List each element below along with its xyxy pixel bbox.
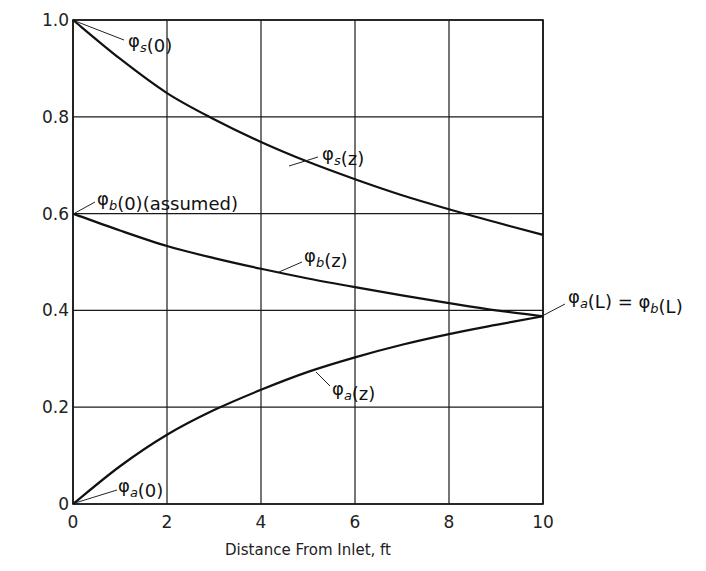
annot-phi-a-0: φa(0) xyxy=(118,475,163,501)
leader-phi-a-z xyxy=(316,372,330,386)
y-tick-label: 0.4 xyxy=(42,300,69,320)
leader-phi-a-L xyxy=(544,304,565,315)
leader-phi-s-0 xyxy=(75,21,124,40)
x-tick-label: 0 xyxy=(68,512,79,532)
annot-phi-b-z: φb(z) xyxy=(304,245,348,271)
y-tick-label: 1.0 xyxy=(42,10,69,30)
annot-phi-a-L-eq-phi-b-L: φa(L) = φb(L) xyxy=(568,286,683,317)
x-tick-label: 10 xyxy=(532,512,554,532)
y-tick-label: 0.6 xyxy=(42,204,69,224)
x-tick-label: 6 xyxy=(350,512,361,532)
leader-phi-b-z xyxy=(279,262,302,272)
x-axis-title: Distance From Inlet, ft xyxy=(225,541,391,559)
x-tick-label: 8 xyxy=(444,512,455,532)
x-tick-label: 2 xyxy=(162,512,173,532)
line-chart: 024681000.20.40.60.81.0 Distance From In… xyxy=(0,0,706,571)
annot-phi-s-z: φs(z) xyxy=(322,143,364,169)
y-tick-label: 0 xyxy=(58,494,69,514)
curve-annotations: φs(0)φs(z)φb(0)(assumed)φb(z)φa(L) = φb(… xyxy=(97,30,683,501)
x-tick-label: 4 xyxy=(256,512,267,532)
annot-phi-s-0: φs(0) xyxy=(128,30,172,56)
annot-phi-a-z: φa(z) xyxy=(332,378,375,404)
leader-phi-b-0 xyxy=(75,202,95,213)
tick-labels: 024681000.20.40.60.81.0 xyxy=(42,10,554,532)
phi-a-curve xyxy=(73,316,543,504)
y-tick-label: 0.2 xyxy=(42,397,69,417)
y-tick-label: 0.8 xyxy=(42,107,69,127)
